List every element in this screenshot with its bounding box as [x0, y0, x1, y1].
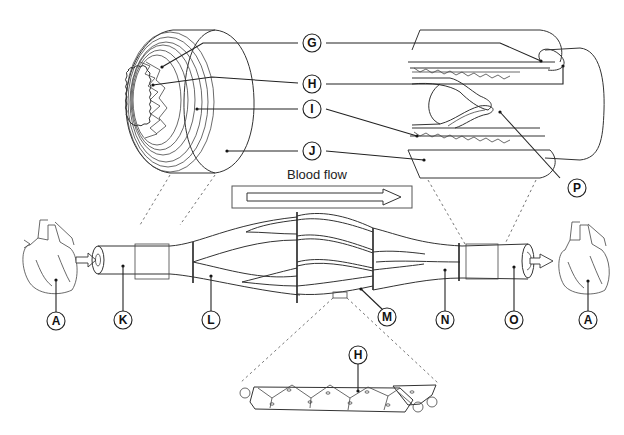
label-O: O — [505, 311, 523, 329]
svg-text:L: L — [207, 313, 214, 327]
blood-flow-label: Blood flow — [287, 167, 348, 182]
leader-lines-top — [153, 43, 563, 178]
label-H: H — [303, 75, 321, 93]
diagram-canvas: Blood flow — [0, 0, 624, 435]
vessel-network — [23, 212, 609, 383]
label-N: N — [436, 311, 454, 329]
heart-left-icon — [23, 220, 77, 294]
capillary-detail — [240, 364, 437, 412]
label-L: L — [202, 311, 220, 329]
svg-text:P: P — [573, 181, 581, 195]
label-J: J — [303, 142, 321, 160]
svg-text:I: I — [310, 102, 313, 116]
svg-text:K: K — [119, 313, 128, 327]
label-M: M — [378, 308, 396, 326]
label-A-left: A — [47, 312, 65, 330]
label-P: P — [568, 179, 586, 197]
heart-right-icon — [559, 222, 609, 294]
svg-text:A: A — [584, 313, 593, 327]
label-G: G — [303, 34, 321, 52]
blood-flow-indicator: Blood flow — [232, 167, 412, 208]
label-I: I — [303, 100, 321, 118]
svg-text:O: O — [509, 313, 518, 327]
vein-cross-section — [408, 30, 604, 244]
svg-text:N: N — [441, 313, 450, 327]
svg-text:G: G — [307, 36, 316, 50]
svg-text:J: J — [309, 144, 316, 158]
svg-text:M: M — [382, 310, 392, 324]
svg-text:H: H — [354, 348, 363, 362]
label-A-right: A — [579, 311, 597, 329]
label-K: K — [114, 311, 132, 329]
leader-lines-middle — [56, 266, 588, 313]
svg-text:A: A — [52, 314, 61, 328]
label-H-detail: H — [349, 346, 367, 364]
svg-text:H: H — [308, 77, 317, 91]
